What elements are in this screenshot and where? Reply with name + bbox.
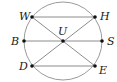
circle-diagram: WHBUSDE <box>0 0 117 82</box>
label-W: W <box>19 10 32 23</box>
point-B <box>22 39 26 43</box>
label-H: H <box>99 10 110 23</box>
label-D: D <box>18 60 28 73</box>
label-B: B <box>10 35 19 48</box>
labels: WHBUSDE <box>10 10 115 77</box>
label-S: S <box>107 35 115 48</box>
point-H <box>93 15 97 19</box>
point-E <box>93 64 97 68</box>
diagram-canvas: WHBUSDE <box>0 0 117 82</box>
label-E: E <box>98 64 107 77</box>
point-D <box>30 64 34 68</box>
point-S <box>100 39 104 43</box>
label-U: U <box>58 25 68 38</box>
point-U <box>61 39 65 43</box>
point-W <box>30 15 34 19</box>
